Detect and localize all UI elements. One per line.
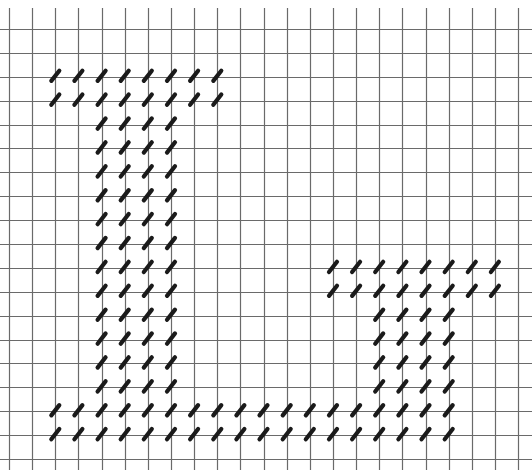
tent-stitch <box>98 310 106 320</box>
tent-stitch <box>121 310 129 320</box>
stitch-chart <box>0 0 532 471</box>
tent-stitch <box>121 71 129 81</box>
tent-stitch <box>445 405 453 415</box>
tent-stitch <box>121 214 129 224</box>
tent-stitch <box>144 333 152 343</box>
tent-stitch <box>98 238 106 248</box>
tent-stitch <box>445 286 453 296</box>
tent-stitch <box>98 286 106 296</box>
tent-stitch <box>445 310 453 320</box>
tent-stitch <box>144 357 152 367</box>
tent-stitch <box>144 405 152 415</box>
tent-stitch <box>144 262 152 272</box>
tent-stitch <box>260 405 268 415</box>
tent-stitch <box>445 357 453 367</box>
tent-stitch <box>98 190 106 200</box>
tent-stitch <box>121 405 129 415</box>
tent-stitch <box>283 429 291 439</box>
tent-stitch <box>445 333 453 343</box>
tent-stitch <box>121 95 129 105</box>
tent-stitch <box>98 166 106 176</box>
tent-stitch <box>98 95 106 105</box>
tent-stitch <box>144 118 152 128</box>
tent-stitch <box>468 286 476 296</box>
tent-stitch <box>422 381 430 391</box>
tent-stitch <box>422 262 430 272</box>
tent-stitch <box>98 333 106 343</box>
tent-stitch <box>98 118 106 128</box>
tent-stitch <box>422 357 430 367</box>
tent-stitch <box>121 238 129 248</box>
tent-stitch <box>260 429 268 439</box>
tent-stitch <box>144 381 152 391</box>
tent-stitch <box>144 71 152 81</box>
tent-stitch <box>306 405 314 415</box>
tent-stitch <box>144 310 152 320</box>
tent-stitch <box>306 429 314 439</box>
tent-stitch <box>283 405 291 415</box>
tent-stitch <box>144 95 152 105</box>
tent-stitch <box>144 142 152 152</box>
tent-stitch <box>445 381 453 391</box>
tent-stitch <box>121 190 129 200</box>
tent-stitch <box>98 357 106 367</box>
tent-stitch <box>144 190 152 200</box>
tent-stitch <box>445 262 453 272</box>
tent-stitch <box>144 214 152 224</box>
tent-stitch <box>121 333 129 343</box>
tent-stitch <box>121 381 129 391</box>
tent-stitch <box>422 286 430 296</box>
tent-stitch <box>121 286 129 296</box>
tent-stitch <box>422 333 430 343</box>
tent-stitch <box>98 71 106 81</box>
tent-stitch <box>422 310 430 320</box>
tent-stitch <box>98 214 106 224</box>
tent-stitch <box>422 405 430 415</box>
tent-stitch <box>468 262 476 272</box>
tent-stitch <box>144 166 152 176</box>
tent-stitch <box>144 238 152 248</box>
tent-stitch <box>98 405 106 415</box>
tent-stitch <box>121 357 129 367</box>
tent-stitch <box>445 429 453 439</box>
tent-stitch <box>144 429 152 439</box>
tent-stitch <box>121 429 129 439</box>
tent-stitch <box>121 118 129 128</box>
tent-stitch <box>422 429 430 439</box>
tent-stitch <box>98 262 106 272</box>
tent-stitch <box>121 262 129 272</box>
tent-stitch <box>98 429 106 439</box>
tent-stitch <box>144 286 152 296</box>
tent-stitch <box>121 166 129 176</box>
tent-stitch <box>98 381 106 391</box>
tent-stitch <box>121 142 129 152</box>
tent-stitch <box>98 142 106 152</box>
